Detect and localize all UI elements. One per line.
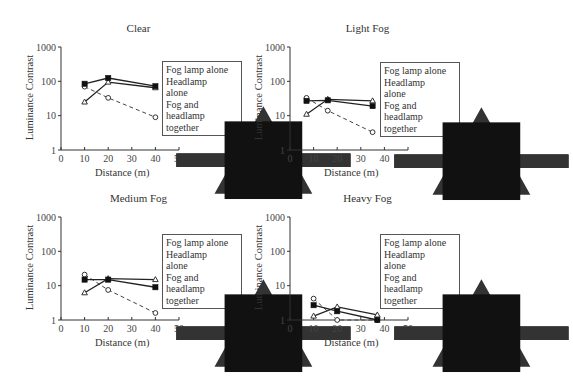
y-tick-label: 10: [275, 110, 285, 121]
y-tick-label: 10: [275, 280, 285, 291]
y-tick-label: 1000: [265, 42, 285, 53]
data-point-marker: [153, 115, 158, 120]
legend-marker: [447, 298, 517, 368]
y-tick-label: 1000: [36, 212, 56, 223]
data-point-marker: [304, 98, 309, 103]
legend: Fog lamp aloneHeadlamp aloneFog and head…: [380, 62, 460, 137]
x-tick-label: 10: [80, 153, 90, 164]
legend: Fog lamp aloneHeadlamp aloneFog and head…: [162, 234, 242, 309]
y-tick-label: 1: [280, 315, 285, 326]
legend: Fog lamp aloneHeadlamp aloneFog and head…: [162, 61, 242, 136]
data-point-marker: [304, 111, 310, 116]
data-point-marker: [370, 103, 375, 108]
data-point-marker: [82, 272, 87, 277]
data-point-marker: [106, 277, 111, 282]
legend-item: Fog and headlamp together: [384, 272, 455, 307]
x-tick-label: 30: [127, 153, 137, 164]
data-point-marker: [325, 108, 330, 113]
series-headlamp-alone: [304, 96, 376, 116]
y-tick-label: 100: [270, 76, 285, 87]
chart-panel-heavy-fog: Heavy Fog Luminance Contrast Distance (m…: [241, 183, 482, 366]
data-point-marker: [311, 296, 316, 301]
x-tick-label: 20: [103, 323, 113, 334]
x-tick-label: 0: [288, 153, 293, 164]
y-tick-label: 1000: [36, 42, 56, 53]
x-tick-label: 30: [127, 323, 137, 334]
x-tick-label: 20: [103, 153, 113, 164]
data-point-marker: [153, 311, 158, 316]
series-headlamp-alone: [82, 79, 158, 104]
x-tick-label: 30: [356, 323, 366, 334]
data-point-marker: [82, 277, 87, 282]
y-tick-label: 10: [46, 110, 56, 121]
y-tick-label: 1: [51, 315, 56, 326]
x-tick-label: 20: [332, 323, 342, 334]
x-tick-label: 0: [59, 153, 64, 164]
x-tick-label: 20: [332, 153, 342, 164]
data-point-marker: [82, 290, 88, 295]
x-tick-label: 0: [288, 323, 293, 334]
y-tick-label: 10: [46, 280, 56, 291]
data-point-marker: [370, 130, 375, 135]
data-point-marker: [311, 313, 317, 318]
y-tick-label: 1: [280, 145, 285, 156]
data-point-marker: [375, 317, 380, 322]
data-point-marker: [106, 95, 111, 100]
chart-panel-medium-fog: Medium Fog Luminance Contrast Distance (…: [0, 183, 241, 366]
data-point-marker: [106, 75, 111, 80]
x-tick-label: 40: [150, 153, 160, 164]
y-tick-label: 1000: [265, 212, 285, 223]
data-point-marker: [334, 304, 340, 309]
data-point-marker: [106, 288, 111, 293]
x-tick-label: 0: [59, 323, 64, 334]
data-point-marker: [153, 277, 159, 282]
y-tick-label: 1: [51, 145, 56, 156]
x-tick-label: 10: [80, 323, 90, 334]
x-tick-label: 10: [309, 323, 319, 334]
series-fog-lamp-alone: [82, 84, 158, 119]
legend: Fog lamp aloneHeadlamp aloneFog and head…: [380, 234, 460, 309]
data-point-marker: [335, 309, 340, 314]
data-point-marker: [153, 84, 158, 89]
y-tick-label: 100: [41, 246, 56, 257]
legend-item: Fog and headlamp together: [166, 272, 237, 307]
data-point-marker: [335, 318, 340, 323]
y-tick-label: 100: [41, 76, 56, 87]
x-tick-label: 10: [309, 153, 319, 164]
square-filled-legend-icon: [381, 235, 573, 377]
chart-panel-clear: Clear Luminance Contrast Distance (m) 01…: [0, 0, 241, 183]
chart-panel-light-fog: Light Fog Luminance Contrast Distance (m…: [241, 0, 482, 183]
y-tick-label: 100: [270, 246, 285, 257]
data-point-marker: [82, 81, 87, 86]
data-point-marker: [311, 303, 316, 308]
x-tick-label: 40: [150, 323, 160, 334]
data-point-marker: [153, 285, 158, 290]
legend-item: Fog and headlamp together: [384, 100, 455, 135]
data-point-marker: [325, 98, 330, 103]
data-point-marker: [370, 98, 376, 103]
legend-item: Fog and headlamp together: [166, 99, 237, 134]
x-tick-label: 30: [356, 153, 366, 164]
data-point-marker: [375, 312, 381, 317]
